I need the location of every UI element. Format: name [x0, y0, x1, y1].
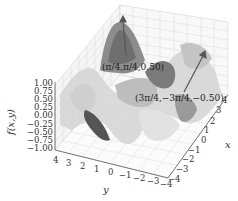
svg-text:3: 3: [66, 158, 71, 168]
svg-text:−3: −3: [176, 164, 189, 174]
svg-text:1: 1: [204, 125, 209, 135]
svg-text:4: 4: [53, 155, 58, 165]
svg-text:1: 1: [94, 164, 99, 174]
svg-text:−2: −2: [182, 154, 195, 164]
svg-text:0: 0: [108, 167, 113, 177]
svg-text:−1.00: −1.00: [27, 143, 53, 153]
z-axis: 1.00 0.75 0.50 0.25 0.00 −0.25 −0.50 −0.…: [5, 78, 55, 153]
svg-text:−1: −1: [188, 145, 201, 155]
surface-plot: (π/4,π/4,0.50) (3π/4,−3π/4,−0.50) 1.00 0…: [0, 0, 238, 201]
svg-text:4: 4: [222, 95, 227, 105]
x-axis-label: x: [225, 139, 231, 150]
svg-text:2: 2: [210, 116, 215, 126]
svg-text:0: 0: [201, 135, 206, 145]
svg-text:−3: −3: [147, 176, 160, 186]
svg-text:2: 2: [80, 161, 85, 171]
svg-text:−1: −1: [119, 170, 132, 180]
y-axis-label: y: [102, 184, 109, 195]
annotation-label-max: (π/4,π/4,0.50): [102, 62, 164, 72]
svg-text:3: 3: [216, 105, 221, 115]
svg-text:−4: −4: [168, 174, 181, 184]
svg-text:−2: −2: [133, 173, 146, 183]
annotation-label-min: (3π/4,−3π/4,−0.50): [135, 93, 224, 103]
z-axis-label: f(x,y): [5, 109, 16, 136]
